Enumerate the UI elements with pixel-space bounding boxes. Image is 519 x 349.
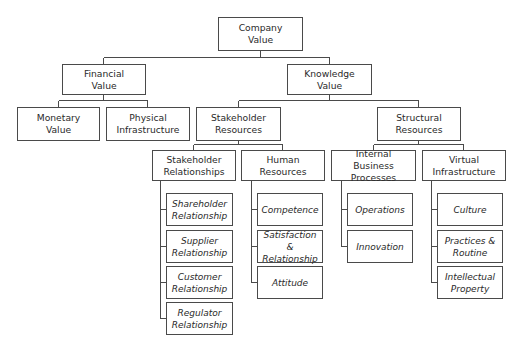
node-knowledge-value: Knowledge Value: [287, 64, 372, 95]
node-company-value: Company Value: [218, 17, 303, 51]
leaf-attitude: Attitude: [257, 266, 323, 299]
leaf-competence: Competence: [257, 193, 323, 226]
node-human-resources: Human Resources: [241, 150, 325, 181]
leaf-practices-routine: Practices & Routine: [437, 230, 503, 263]
node-structural-resources: Structural Resources: [377, 107, 461, 141]
node-monetary-value: Monetary Value: [17, 107, 100, 141]
leaf-supplier-relationship: Supplier Relationship: [166, 230, 233, 263]
leaf-customer-relationship: Customer Relationship: [166, 266, 233, 299]
leaf-culture: Culture: [437, 193, 503, 226]
leaf-intellectual-property: Intellectual Property: [437, 266, 503, 299]
leaf-satisfaction-relationship: Satisfaction & Relationship: [257, 230, 323, 263]
node-physical-infrastructure: Physical Infrastructure: [106, 107, 190, 141]
node-stakeholder-relationships: Stakeholder Relationships: [152, 150, 236, 181]
node-internal-business-processes: Internal Business Processes: [331, 150, 416, 181]
leaf-operations: Operations: [347, 193, 413, 226]
node-virtual-infrastructure: Virtual Infrastructure: [422, 150, 506, 181]
leaf-regulator-relationship: Regulator Relationship: [166, 302, 233, 335]
node-stakeholder-resources: Stakeholder Resources: [196, 107, 281, 141]
leaf-shareholder-relationship: Shareholder Relationship: [166, 193, 233, 226]
node-financial-value: Financial Value: [62, 64, 146, 95]
leaf-innovation: Innovation: [347, 230, 413, 263]
